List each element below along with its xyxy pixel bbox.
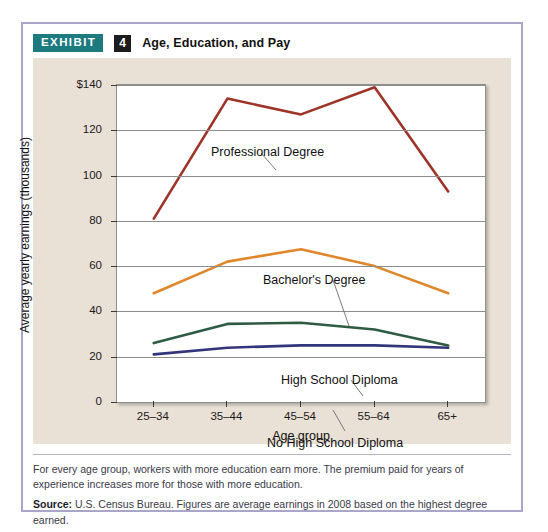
y-axis-tick-label: 0 bbox=[54, 395, 102, 407]
plot-area bbox=[116, 84, 486, 403]
x-axis-title: Age group bbox=[116, 429, 486, 443]
y-axis-tick bbox=[111, 221, 117, 222]
exhibit-frame: EXHIBIT 4 Age, Education, and Pay Averag… bbox=[21, 22, 523, 512]
y-axis-title: Average yearly earnings (thousands) bbox=[18, 137, 32, 333]
x-axis-tick-label: 35–44 bbox=[194, 410, 258, 422]
exhibit-number-box: 4 bbox=[114, 35, 131, 52]
caption-divider bbox=[33, 454, 511, 455]
y-axis-tick bbox=[111, 266, 117, 267]
gridline bbox=[117, 85, 485, 86]
y-axis-tick bbox=[111, 311, 117, 312]
y-axis-tick-label: $140 bbox=[54, 78, 102, 90]
y-axis-tick-label: 60 bbox=[54, 259, 102, 271]
source-body: U.S. Census Bureau. Figures are average … bbox=[33, 498, 487, 525]
x-axis-tick bbox=[153, 401, 154, 407]
x-axis-tick bbox=[300, 401, 301, 407]
series-layer bbox=[117, 85, 485, 402]
gridline bbox=[117, 176, 485, 177]
series-line bbox=[154, 345, 448, 354]
y-axis-tick bbox=[111, 176, 117, 177]
page-title: Age, Education, and Pay bbox=[142, 36, 290, 50]
y-axis-tick bbox=[111, 130, 117, 131]
y-axis-tick-label: 80 bbox=[54, 214, 102, 226]
source-label: Source: bbox=[33, 498, 72, 510]
gridline bbox=[117, 130, 485, 131]
x-axis-tick-label: 55–64 bbox=[342, 410, 406, 422]
series-annotation-label: Bachelor's Degree bbox=[263, 273, 365, 287]
gridline bbox=[117, 266, 485, 267]
exhibit-header: EXHIBIT 4 Age, Education, and Pay bbox=[33, 32, 290, 54]
gridline bbox=[117, 221, 485, 222]
caption-area: For every age group, workers with more e… bbox=[33, 454, 511, 528]
x-axis-tick bbox=[374, 401, 375, 407]
y-axis-tick bbox=[111, 85, 117, 86]
series-line bbox=[154, 323, 448, 346]
x-axis-tick-label: 45–54 bbox=[268, 410, 332, 422]
source-line: Source: U.S. Census Bureau. Figures are … bbox=[33, 497, 511, 527]
x-axis-tick bbox=[226, 401, 227, 407]
chart-panel: Average yearly earnings (thousands) 0204… bbox=[33, 58, 511, 444]
gridline bbox=[117, 357, 485, 358]
series-annotation-label: High School Diploma bbox=[281, 373, 398, 387]
caption-body: For every age group, workers with more e… bbox=[33, 462, 511, 492]
exhibit-badge: EXHIBIT bbox=[33, 34, 103, 52]
gridline bbox=[117, 311, 485, 312]
series-annotation-label: Professional Degree bbox=[211, 145, 324, 159]
y-axis-tick-label: 100 bbox=[54, 169, 102, 181]
x-axis-tick-label: 65+ bbox=[415, 410, 479, 422]
x-axis-tick-label: 25–34 bbox=[121, 410, 185, 422]
y-axis-tick-label: 40 bbox=[54, 304, 102, 316]
y-axis-tick-label: 20 bbox=[54, 350, 102, 362]
x-axis-tick bbox=[447, 401, 448, 407]
y-axis-tick bbox=[111, 402, 117, 403]
y-axis-tick-label: 120 bbox=[54, 123, 102, 135]
y-axis-tick bbox=[111, 357, 117, 358]
